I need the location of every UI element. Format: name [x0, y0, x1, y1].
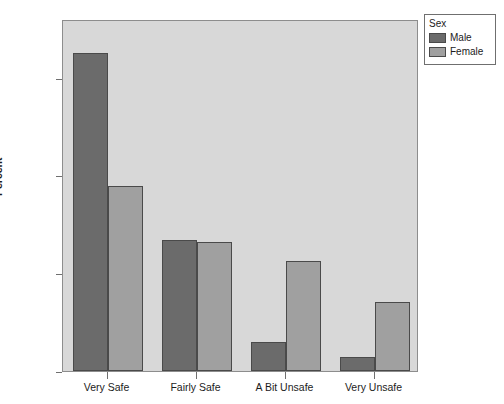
y-tick-mark	[56, 372, 62, 373]
x-tick-mark	[285, 372, 286, 379]
legend-label-female: Female	[450, 46, 483, 58]
legend-item-female[interactable]: Female	[429, 46, 491, 58]
legend-label-male: Male	[450, 32, 472, 44]
bar-female-very-safe[interactable]	[108, 186, 143, 371]
legend-swatch-female-icon	[429, 47, 446, 57]
x-tick-mark	[374, 372, 375, 379]
bar-male-fairly-safe[interactable]	[162, 240, 197, 371]
x-tick-mark	[107, 372, 108, 379]
legend-title: Sex	[429, 18, 491, 29]
bar-male-very-safe[interactable]	[73, 53, 108, 371]
bar-male-a-bit-unsafe[interactable]	[251, 342, 286, 371]
legend[interactable]: Sex Male Female	[424, 14, 496, 65]
bar-female-a-bit-unsafe[interactable]	[286, 261, 321, 371]
bar-female-very-unsafe[interactable]	[375, 302, 410, 371]
legend-item-male[interactable]: Male	[429, 32, 491, 44]
y-axis-title: Percent	[0, 157, 4, 196]
legend-swatch-male-icon	[429, 33, 446, 43]
bar-male-very-unsafe[interactable]	[340, 357, 375, 371]
plot-area	[62, 20, 418, 372]
x-tick-mark	[196, 372, 197, 379]
bars-layer	[63, 21, 417, 371]
x-tick-label: Very Unsafe	[319, 381, 429, 393]
bar-chart: Percent 0.0%20.0%40.0%60.0% Very SafeFai…	[0, 0, 504, 404]
bar-female-fairly-safe[interactable]	[197, 242, 232, 371]
